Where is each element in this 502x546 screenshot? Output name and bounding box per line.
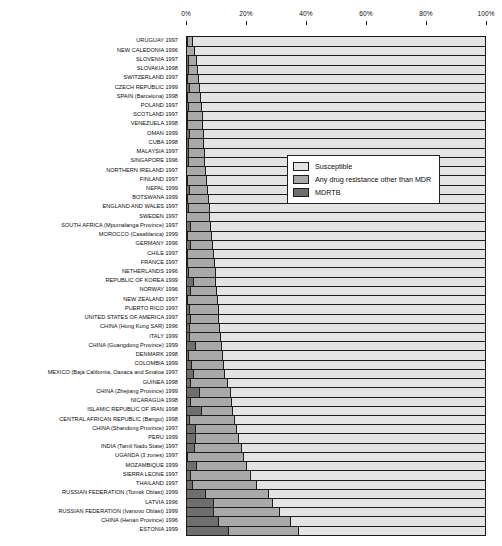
bar-segment-susceptible <box>223 351 485 359</box>
x-axis-tick-label: 100% <box>466 10 502 18</box>
bar-segment-other-resistance <box>196 434 240 442</box>
bar-segment-other-resistance <box>202 407 233 415</box>
bar-segment-susceptible <box>201 93 485 101</box>
category-label: NORWAY 1996 <box>139 286 178 292</box>
bar-row <box>187 304 485 313</box>
bar-segment-other-resistance <box>214 508 280 516</box>
bar-segment-other-resistance <box>188 195 209 203</box>
x-axis-tick: 100% <box>466 10 502 25</box>
bar-segment-other-resistance <box>189 268 216 276</box>
bar-segment-susceptible <box>219 315 485 323</box>
bar-segment-other-resistance <box>188 121 203 129</box>
bar-row <box>187 526 485 535</box>
category-label: BOTSWANA 1999 <box>132 194 178 200</box>
bar-segment-susceptible <box>221 333 485 341</box>
bar-segment-other-resistance <box>190 324 221 332</box>
x-axis-tick-mark <box>426 21 427 25</box>
bar-segment-susceptible <box>237 425 485 433</box>
bar-row <box>187 74 485 83</box>
bar-row <box>187 231 485 240</box>
bar-segment-susceptible <box>269 490 485 498</box>
bar-segment-other-resistance <box>191 379 228 387</box>
bar-segment-mdrtb <box>187 342 196 350</box>
bar-row <box>187 129 485 138</box>
bar-row <box>187 452 485 461</box>
category-label: CHINA (Hong Kong SAR) 1996 <box>100 323 178 329</box>
x-axis-tick-label: 60% <box>346 10 386 18</box>
bar-row <box>187 267 485 276</box>
bar-segment-susceptible <box>251 471 485 479</box>
bar-segment-mdrtb <box>187 444 195 452</box>
bar-segment-mdrtb <box>187 499 214 507</box>
bar-segment-susceptible <box>216 278 485 286</box>
bar-segment-susceptible <box>242 444 485 452</box>
category-label: CUBA 1998 <box>149 139 178 145</box>
bar-segment-other-resistance <box>190 416 235 424</box>
bar-segment-other-resistance <box>219 517 291 525</box>
legend-swatch-icon <box>293 175 309 184</box>
legend-label: Susceptible <box>315 162 352 171</box>
bar-segment-susceptible <box>219 305 485 313</box>
x-axis-tick: 40% <box>286 10 326 25</box>
bar-segment-susceptible <box>213 241 485 249</box>
category-label: GUINEA 1998 <box>143 379 178 385</box>
bar-segment-susceptible <box>218 296 485 304</box>
bar-segment-mdrtb <box>187 434 196 442</box>
x-axis-tick-mark <box>246 21 247 25</box>
category-label: PUERTO RICO 1997 <box>125 305 178 311</box>
legend-label: MDRTB <box>315 188 340 197</box>
bar-segment-other-resistance <box>190 186 208 194</box>
category-label: MOROCCO (Casablanca) 1999 <box>99 231 178 237</box>
bar-row <box>187 249 485 258</box>
bar-segment-other-resistance <box>192 361 224 369</box>
bar-segment-susceptible <box>239 434 485 442</box>
category-label: MALAYSIA 1997 <box>136 148 178 154</box>
bar-row <box>187 498 485 507</box>
bar-segment-susceptible <box>199 75 485 83</box>
bar-segment-other-resistance <box>188 112 203 120</box>
bar-row <box>187 295 485 304</box>
bar-segment-susceptible <box>214 250 485 258</box>
bar-segment-other-resistance <box>191 287 217 295</box>
bar-segment-susceptible <box>220 324 485 332</box>
bar-segment-mdrtb <box>187 370 194 378</box>
bar-segment-other-resistance <box>189 149 205 157</box>
x-axis-tick-label: 0% <box>166 10 206 18</box>
bar-segment-other-resistance <box>187 47 195 55</box>
bar-segment-susceptible <box>235 416 485 424</box>
bar-row <box>187 203 485 212</box>
bar-segment-susceptible <box>257 481 485 489</box>
category-label: SCOTLAND 1997 <box>133 111 178 117</box>
bar-row <box>187 369 485 378</box>
bar-segment-susceptible <box>291 517 485 525</box>
bar-row <box>187 221 485 230</box>
bar-segment-other-resistance <box>188 93 201 101</box>
bar-segment-other-resistance <box>191 471 251 479</box>
bar-segment-other-resistance <box>189 66 199 74</box>
category-label: THAILAND 1997 <box>136 480 178 486</box>
category-label: ITALY 1999 <box>149 333 178 339</box>
bar-segment-susceptible <box>244 453 485 461</box>
bar-row <box>187 65 485 74</box>
category-label: COLOMBIA 1999 <box>135 360 178 366</box>
legend-item: Any drug resistance other than MDR <box>293 173 431 186</box>
bar-row <box>187 138 485 147</box>
bar-segment-other-resistance <box>189 139 204 147</box>
bar-segment-other-resistance <box>206 490 269 498</box>
category-label: SINGAPORE 1996 <box>130 157 178 163</box>
category-label: FINLAND 1997 <box>140 176 178 182</box>
bar-segment-susceptible <box>210 204 485 212</box>
category-label: CHINA (Shandong Province) 1997 <box>92 425 178 431</box>
bar-row <box>187 350 485 359</box>
bar-segment-other-resistance <box>188 453 244 461</box>
bar-segment-other-resistance <box>189 56 197 64</box>
x-axis-tick-mark <box>366 21 367 25</box>
bar-segment-other-resistance <box>190 333 221 341</box>
bar-row <box>187 378 485 387</box>
bar-row <box>187 111 485 120</box>
bar-row <box>187 461 485 470</box>
bar-segment-other-resistance <box>193 481 257 489</box>
bar-segment-other-resistance <box>190 84 200 92</box>
category-label: REPUBLIC OF KOREA 1999 <box>105 277 178 283</box>
bar-segment-other-resistance <box>194 370 225 378</box>
